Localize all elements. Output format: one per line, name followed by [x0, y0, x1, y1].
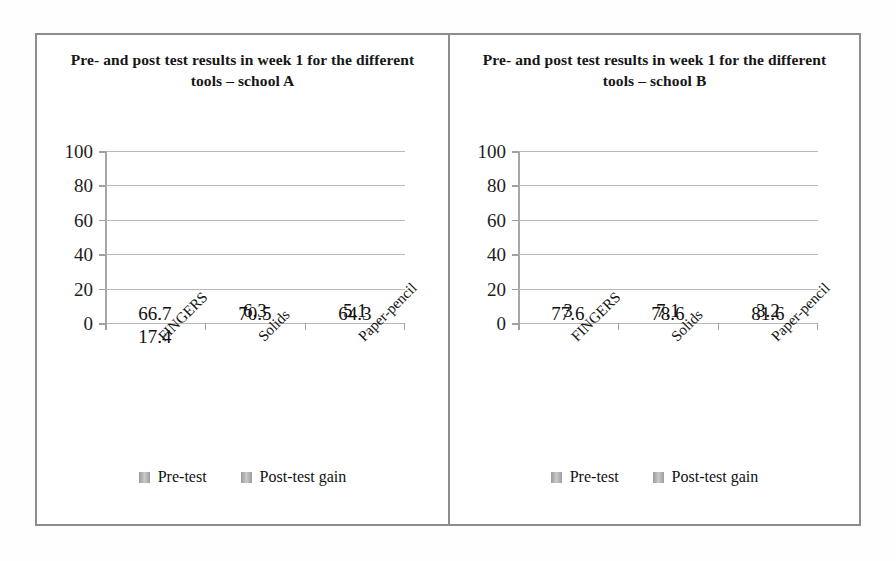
chart-title-school-a: Pre- and post test results in week 1 for… [37, 49, 448, 92]
bar-category-solids: 78.6 7.1 Solids [618, 151, 718, 323]
legend-swatch-icon [653, 472, 664, 483]
legend-swatch-icon [551, 472, 562, 483]
legend-label-post-test-gain: Post-test gain [260, 468, 347, 486]
y-axis-label-0: 0 [84, 314, 94, 333]
legend-label-pre-test: Pre-test [158, 468, 207, 486]
y-axis-label-80: 80 [74, 176, 93, 195]
x-tick-0 [105, 323, 107, 330]
legend-item-pre-test[interactable]: Pre-test [139, 468, 207, 486]
legend-school-a: Pre-test Post-test gain [37, 468, 448, 486]
x-tick-0 [518, 323, 520, 330]
y-axis-label-60: 60 [487, 210, 506, 229]
chart-title-school-b: Pre- and post test results in week 1 for… [450, 49, 859, 92]
y-axis-label-20: 20 [487, 279, 506, 298]
y-axis-label-60: 60 [74, 210, 93, 229]
bar-category-fingers: 66.7 17.4 FINGERS [105, 151, 205, 323]
legend-swatch-icon [241, 472, 252, 483]
bar-group-school-b: 77.6 3 FINGERS 78.6 [518, 151, 818, 323]
figure-frame: Pre- and post test results in week 1 for… [35, 33, 861, 526]
chart-panel-school-a: Pre- and post test results in week 1 for… [37, 35, 448, 524]
y-axis-label-0: 0 [497, 314, 507, 333]
y-axis-label-20: 20 [74, 279, 93, 298]
x-tick-1 [205, 323, 207, 330]
x-tick-2 [305, 323, 307, 330]
y-axis-label-100: 100 [478, 142, 507, 161]
x-tick-3 [404, 323, 406, 330]
figure-sheet: Pre- and post test results in week 1 for… [0, 0, 896, 561]
bar-group-school-a: 66.7 17.4 FINGERS 7 [105, 151, 405, 323]
legend-school-b: Pre-test Post-test gain [450, 468, 859, 486]
legend-label-post-test-gain: Post-test gain [672, 468, 759, 486]
plot-area-school-b: 100 80 60 40 20 0 77.6 [518, 151, 818, 323]
y-axis-label-40: 40 [487, 245, 506, 264]
legend-item-post-test-gain[interactable]: Post-test gain [241, 468, 347, 486]
y-axis-label-40: 40 [74, 245, 93, 264]
x-tick-2 [718, 323, 720, 330]
x-tick-1 [618, 323, 620, 330]
x-tick-3 [817, 323, 819, 330]
bar-category-paper-pencil: 81.6 3.2 Paper-pencil [718, 151, 818, 323]
y-axis-label-100: 100 [65, 142, 94, 161]
bar-category-fingers: 77.6 3 FINGERS [518, 151, 618, 323]
bar-category-solids: 70.5 6.3 Solids [205, 151, 305, 323]
bar-category-paper-pencil: 64.3 5.1 Paper-pencil [305, 151, 405, 323]
legend-swatch-icon [139, 472, 150, 483]
legend-label-pre-test: Pre-test [570, 468, 619, 486]
legend-item-post-test-gain[interactable]: Post-test gain [653, 468, 759, 486]
legend-item-pre-test[interactable]: Pre-test [551, 468, 619, 486]
plot-area-school-a: 100 80 60 40 20 0 66.7 [105, 151, 405, 323]
chart-panel-school-b: Pre- and post test results in week 1 for… [448, 35, 859, 524]
y-axis-label-80: 80 [487, 176, 506, 195]
